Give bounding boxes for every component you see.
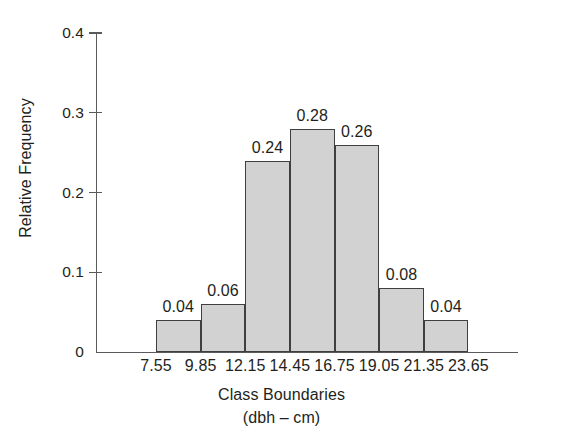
histogram-bar (424, 320, 469, 352)
y-axis-tick-label: 0.4 (44, 25, 84, 41)
y-axis-tick-label: 0.1 (44, 264, 84, 280)
y-axis-tick-label: 0.3 (44, 105, 84, 121)
bar-value-label: 0.26 (329, 124, 386, 140)
histogram-bar (156, 320, 201, 352)
x-axis-subtitle: (dbh – cm) (0, 408, 563, 427)
y-axis-line (96, 33, 97, 352)
histogram-bar (335, 145, 380, 352)
bar-value-label: 0.08 (373, 267, 430, 283)
histogram-bar (201, 304, 246, 352)
y-axis-tick-label: 0 (44, 344, 84, 360)
histogram-bar (290, 129, 335, 352)
bar-value-label: 0.24 (239, 140, 296, 156)
bar-value-label: 0.28 (284, 108, 341, 124)
bar-value-label: 0.06 (195, 283, 252, 299)
histogram-bar (245, 161, 290, 352)
y-axis-title: Relative Frequency (18, 58, 34, 278)
x-axis-tick-label: 23.65 (442, 357, 494, 375)
y-axis-tick-label: 0.2 (44, 185, 84, 201)
histogram-chart: Relative Frequency 0.40.30.20.10 0.040.0… (0, 0, 563, 444)
bar-value-label: 0.04 (150, 299, 207, 315)
histogram-bar (379, 288, 424, 352)
x-axis-title: Class Boundaries (0, 385, 563, 404)
bar-value-label: 0.04 (418, 299, 475, 315)
x-axis-line (96, 352, 518, 353)
